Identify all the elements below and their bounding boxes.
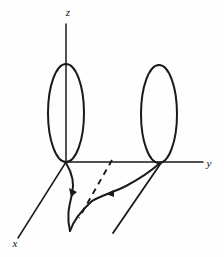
coordinate-diagram: z y x (0, 0, 224, 257)
right-straight-line (113, 163, 161, 233)
lower-junction-curve (70, 201, 92, 231)
y-axis-label: y (206, 157, 212, 169)
x-axis-label: x (12, 237, 18, 249)
x-axis-line (18, 162, 66, 238)
right-loop (141, 65, 177, 163)
left-field-curve (66, 163, 73, 231)
z-axis-label: z (65, 6, 71, 18)
right-curve-arrowhead-icon (106, 190, 114, 197)
right-field-curve (92, 163, 160, 201)
figure-canvas: z y x (0, 0, 224, 257)
